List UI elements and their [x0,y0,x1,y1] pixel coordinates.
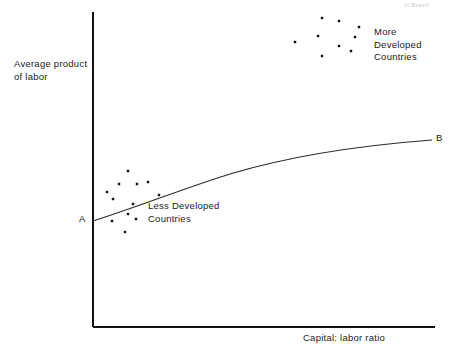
data-point [321,17,323,19]
data-point [106,191,108,193]
page-header-fragment: in Brazil [404,0,429,12]
curve-end-label-b: B [436,132,443,145]
curve-start-label-a: A [79,213,86,226]
data-point [127,170,129,172]
x-axis-label: Capital: labor ratio [303,332,385,345]
figure-container: Average product of labor Capital: labor … [0,0,455,354]
data-point [338,45,340,47]
data-point [111,220,113,222]
data-point [136,183,138,185]
data-point [294,41,296,43]
data-point [321,55,323,57]
data-point [350,50,352,52]
more-developed-countries-label: More Developed Countries [374,26,422,64]
less-developed-countries-label: Less Developed Countries [148,200,220,225]
data-point [135,218,137,220]
data-point [158,194,160,196]
data-point [354,36,356,38]
data-point [147,181,149,183]
more-developed-countries-points [294,17,360,57]
y-axis-label: Average product of labor [14,58,87,83]
data-point [124,231,126,233]
production-curve-group [93,140,432,221]
data-point [127,213,129,215]
data-point [338,20,340,22]
data-point [132,203,134,205]
data-point [317,35,319,37]
production-function-curve [93,140,432,221]
data-point [358,26,360,28]
data-point [118,183,120,185]
data-point [112,198,114,200]
